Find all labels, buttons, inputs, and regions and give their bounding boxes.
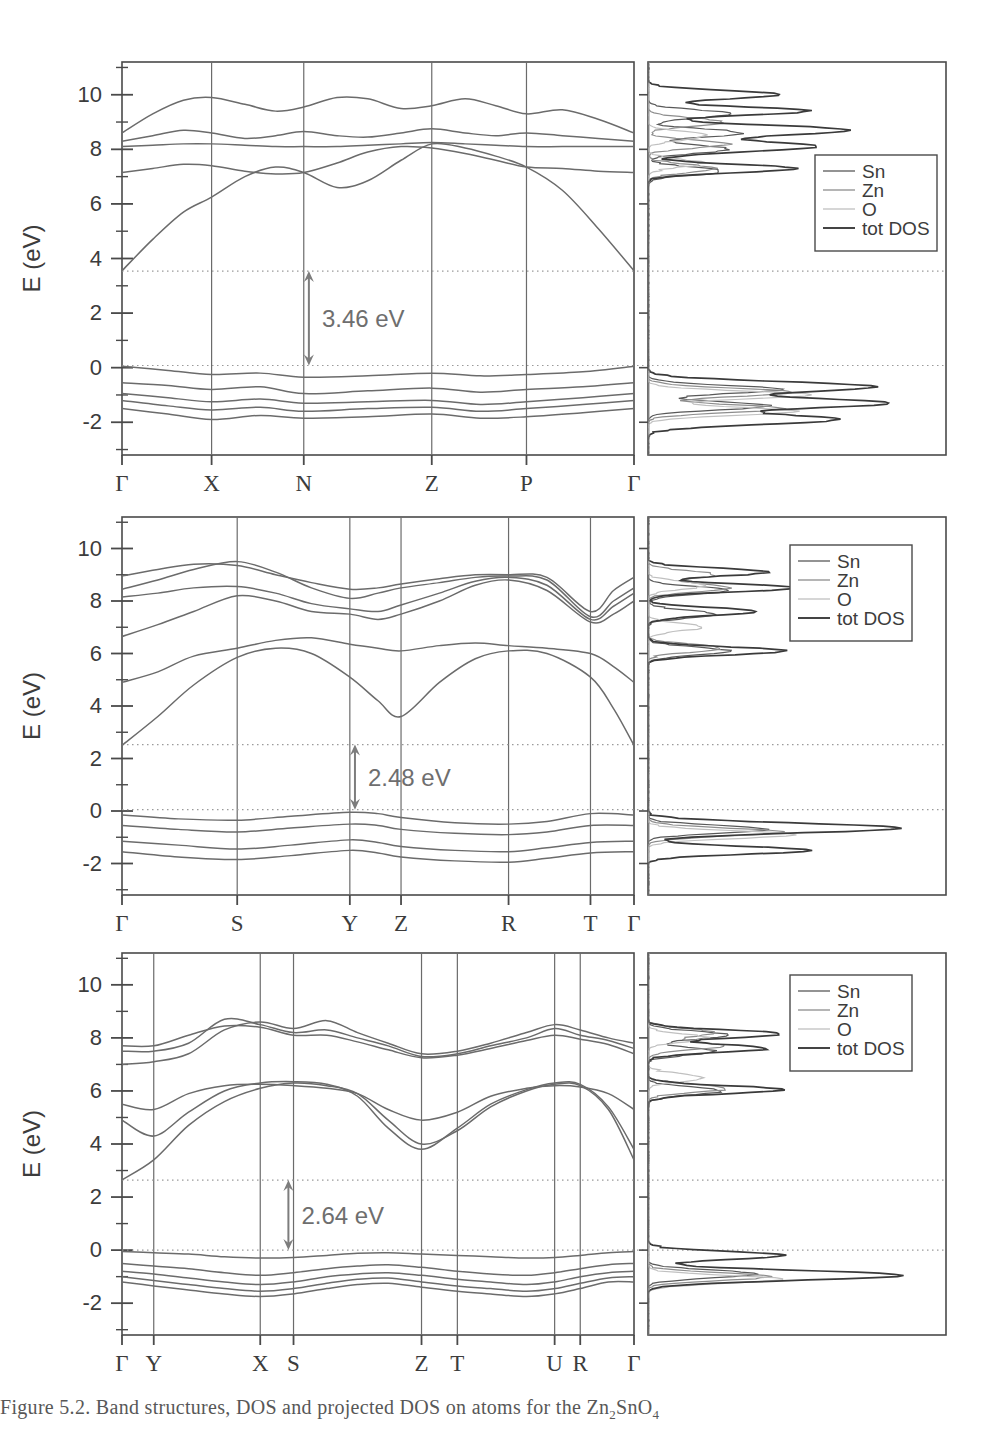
panel-band-structure-2: 1086420-2E (eV)ΓSYZRTΓ2.48 eVSnZnOtot DO… xyxy=(0,505,1002,945)
x-tick-label: T xyxy=(583,911,597,936)
legend-label-o: O xyxy=(862,199,877,220)
x-tick-label: T xyxy=(450,1351,464,1376)
y-axis-label: E (eV) xyxy=(18,1110,45,1178)
panel-band-structure-3: 1086420-2E (eV)ΓYXSZTURΓ2.64 eVSnZnOtot … xyxy=(0,945,1002,1385)
legend-label-sn: Sn xyxy=(862,161,885,182)
band-curve xyxy=(122,840,634,852)
caption-sub-2: 4 xyxy=(653,1407,660,1422)
y-tick-label: 2 xyxy=(90,300,102,325)
y-tick-label: 4 xyxy=(90,1131,102,1156)
legend-label-sn: Sn xyxy=(837,551,860,572)
band-curve xyxy=(122,143,634,147)
panel-band-structure-1: 1086420-2E (eV)ΓXNZPΓ3.46 eVSnZnOtot DOS xyxy=(0,0,1002,505)
band-curve xyxy=(122,812,634,824)
band-gap-annotation: 3.46 eV xyxy=(304,271,405,365)
y-tick-label: 10 xyxy=(78,972,102,997)
x-tick-label: Γ xyxy=(115,471,128,496)
y-tick-label: 2 xyxy=(90,1184,102,1209)
x-tick-label: Z xyxy=(414,1351,428,1376)
x-tick-label: X xyxy=(203,471,220,496)
x-tick-label: R xyxy=(573,1351,589,1376)
band-panel-frame xyxy=(122,517,634,895)
legend-label-zn: Zn xyxy=(837,1000,859,1021)
y-tick-label: 4 xyxy=(90,693,102,718)
band-curves xyxy=(122,562,634,863)
x-tick-label: R xyxy=(501,911,517,936)
legend-label-zn: Zn xyxy=(837,570,859,591)
y-tick-label: 8 xyxy=(90,136,102,161)
legend-label-tot-dos: tot DOS xyxy=(837,1038,905,1059)
caption-prefix: Figure 5.2. xyxy=(0,1396,91,1418)
y-tick-label: 6 xyxy=(90,191,102,216)
band-curve xyxy=(122,1083,634,1180)
x-tick-label: Z xyxy=(394,911,408,936)
band-curve xyxy=(122,97,634,133)
band-curve xyxy=(122,409,634,420)
x-tick-label: X xyxy=(252,1351,269,1376)
x-tick-label: Γ xyxy=(627,911,640,936)
band-curve xyxy=(122,383,634,394)
caption-mid: SnO xyxy=(616,1396,652,1418)
y-axis-label: E (eV) xyxy=(18,224,45,292)
x-tick-label: S xyxy=(287,1351,300,1376)
band-curve xyxy=(122,129,634,141)
band-curve xyxy=(122,1251,634,1258)
x-tick-label: Γ xyxy=(627,471,640,496)
legend-label-tot-dos: tot DOS xyxy=(837,608,905,629)
x-tick-label: P xyxy=(520,471,533,496)
y-tick-label: -2 xyxy=(82,409,102,434)
band-curve xyxy=(122,1084,634,1120)
band-gap-label: 2.48 eV xyxy=(368,764,451,791)
legend-label-zn: Zn xyxy=(862,180,884,201)
band-curve xyxy=(122,1281,634,1296)
plot-canvas-1: 1086420-2E (eV)ΓXNZPΓ3.46 eVSnZnOtot DOS xyxy=(0,0,1002,505)
band-panel-frame xyxy=(122,62,634,455)
legend-label-o: O xyxy=(837,1019,852,1040)
band-curve xyxy=(122,143,634,270)
x-tick-label: U xyxy=(546,1351,563,1376)
band-curve xyxy=(122,1082,634,1150)
x-tick-label: Z xyxy=(425,471,439,496)
legend-label-o: O xyxy=(837,589,852,610)
figure-band-structure-dos: 1086420-2E (eV)ΓXNZPΓ3.46 eVSnZnOtot DOS… xyxy=(0,0,1002,1434)
y-axis-label: E (eV) xyxy=(18,672,45,740)
x-tick-label: S xyxy=(231,911,244,936)
y-tick-label: 10 xyxy=(78,82,102,107)
y-tick-label: 8 xyxy=(90,1025,102,1050)
band-curve xyxy=(122,638,634,683)
y-tick-label: -2 xyxy=(82,851,102,876)
band-curve xyxy=(122,648,634,745)
x-tick-label: Γ xyxy=(115,911,128,936)
y-tick-label: 6 xyxy=(90,1078,102,1103)
band-curves xyxy=(122,1018,634,1296)
band-curve xyxy=(122,1263,634,1275)
legend-label-tot-dos: tot DOS xyxy=(862,218,930,239)
y-tick-label: 6 xyxy=(90,641,102,666)
band-curve xyxy=(122,394,634,405)
band-gap-annotation: 2.64 eV xyxy=(283,1180,384,1250)
legend-label-sn: Sn xyxy=(837,981,860,1002)
dos-curve-o xyxy=(648,62,812,455)
x-tick-label: Y xyxy=(145,1351,162,1376)
band-curve xyxy=(122,824,634,835)
band-curve xyxy=(122,1025,634,1058)
dos-legend: SnZnOtot DOS xyxy=(790,975,912,1071)
x-tick-label: Y xyxy=(342,911,359,936)
y-tick-label: 0 xyxy=(90,1237,102,1262)
dos-curve-tot-dos xyxy=(648,62,888,455)
band-gap-label: 3.46 eV xyxy=(322,305,405,332)
band-curve xyxy=(122,146,634,174)
plot-canvas-2: 1086420-2E (eV)ΓSYZRTΓ2.48 eVSnZnOtot DO… xyxy=(0,505,1002,945)
y-tick-label: 4 xyxy=(90,246,102,271)
y-tick-label: -2 xyxy=(82,1290,102,1315)
dos-curves xyxy=(648,62,888,455)
y-tick-label: 8 xyxy=(90,588,102,613)
dos-legend: SnZnOtot DOS xyxy=(790,545,912,641)
plot-canvas-3: 1086420-2E (eV)ΓYXSZTURΓ2.64 eVSnZnOtot … xyxy=(0,945,1002,1385)
dos-curve-sn xyxy=(648,953,758,1335)
y-tick-label: 0 xyxy=(90,355,102,380)
y-tick-label: 10 xyxy=(78,536,102,561)
band-curves xyxy=(122,97,634,420)
caption-text: Band structures, DOS and projected DOS o… xyxy=(96,1396,609,1418)
x-tick-label: Γ xyxy=(627,1351,640,1376)
